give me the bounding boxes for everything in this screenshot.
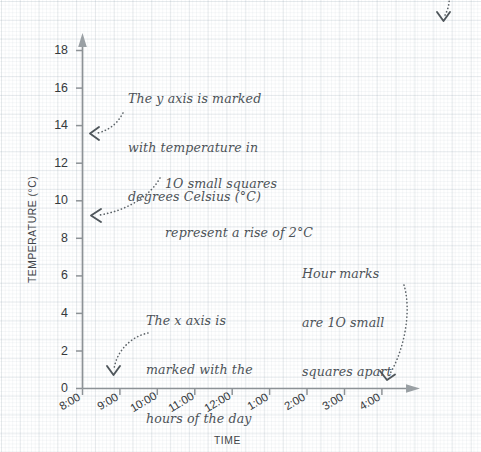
y-axis-ticks [76,51,83,389]
y-tick-label: 2 [42,344,68,358]
annotation-line: squares apart [302,364,392,380]
y-tick-label: 6 [42,268,68,282]
y-axis [78,33,87,389]
y-tick-label: 8 [42,231,68,245]
y-tick-label: 4 [42,306,68,320]
annotation-line: marked with the [146,362,253,378]
annotation-line: The y axis is marked [128,91,261,107]
y-tick-label: 18 [42,43,68,57]
annotation-x-axis-units: The x axis is marked with the hours of t… [146,281,253,443]
annotation-line: are 1O small [302,315,392,331]
annotation-x-scale: Hour marks are 1O small squares apart [302,234,392,396]
annotation-line: 1O small squares [165,176,313,192]
y-tick-label: 16 [42,81,68,95]
annotation-line: The x axis is [146,313,253,329]
annotation-y-scale: 1O small squares represent a rise of 2°C [165,144,313,257]
annotation-line: represent a rise of 2°C [165,225,313,241]
callout-arrow-y-units [98,113,123,133]
y-tick-label: 14 [42,118,68,132]
annotation-line: hours of the day [146,411,253,427]
y-tick-label: 12 [42,156,68,170]
y-axis-title: TEMPERATURE (°C) [27,176,38,283]
callout-arrow-x-units [114,333,148,369]
y-tick-label: 0 [42,381,68,395]
annotation-line: Hour marks [302,266,392,282]
y-tick-label: 10 [42,193,68,207]
